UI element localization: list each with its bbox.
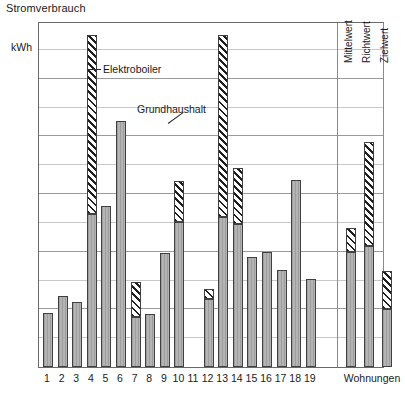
bar-2-grundhaushalt-segment [58, 296, 68, 367]
bar-13-elektroboiler-segment [218, 35, 228, 217]
bar-5-grundhaushalt-segment [101, 206, 111, 367]
bar-8-grundhaushalt-segment [145, 314, 155, 367]
x-tick-19: 19 [300, 372, 320, 384]
elektroboiler-leader-line [87, 69, 101, 70]
bar-mittelwert [346, 228, 356, 367]
bar-14 [233, 167, 243, 367]
bar-9-grundhaushalt-segment [160, 253, 170, 367]
bar-13 [218, 35, 228, 367]
bar-7-elektroboiler-segment [131, 282, 141, 317]
bar-3-grundhaushalt-segment [72, 302, 82, 367]
bar-19-grundhaushalt-segment [306, 279, 316, 367]
bar-16 [262, 252, 272, 367]
bar-18 [291, 180, 301, 367]
bar-mittelwert-elektroboiler-segment [346, 228, 356, 252]
bar-12-grundhaushalt-segment [204, 299, 214, 367]
chart-title: Stromverbrauch [6, 2, 86, 14]
bar-17 [277, 270, 287, 367]
bar-6 [116, 121, 126, 367]
bar-19 [306, 279, 316, 367]
bar-10 [174, 181, 184, 367]
bar-18-grundhaushalt-segment [291, 180, 301, 367]
bar-zielwert-grundhaushalt-segment [382, 309, 392, 367]
annotation-elektroboiler: Elektroboiler [103, 63, 161, 75]
bar-1-grundhaushalt-segment [43, 313, 53, 367]
bar-14-grundhaushalt-segment [233, 224, 243, 367]
label-mittelwert: Mittelwert [343, 20, 354, 63]
bar-8 [145, 314, 155, 367]
bar-richtwert-elektroboiler-segment [364, 142, 374, 246]
label-richtwert: Richtwert [361, 21, 372, 63]
bar-15 [247, 257, 257, 367]
bar-5 [101, 206, 111, 367]
bar-2 [58, 296, 68, 367]
bar-4-elektroboiler-segment [87, 35, 97, 214]
bar-16-grundhaushalt-segment [262, 252, 272, 367]
label-zielwert: Zielwert [379, 28, 390, 63]
y-axis-unit-label: kWh [0, 41, 32, 53]
group-separator [337, 23, 338, 367]
bar-4-grundhaushalt-segment [87, 214, 97, 367]
annotation-grundhaushalt: Grundhaushalt [137, 103, 206, 115]
bar-richtwert [364, 142, 374, 367]
bar-mittelwert-grundhaushalt-segment [346, 252, 356, 367]
bar-9 [160, 253, 170, 367]
bar-7 [131, 282, 141, 367]
bar-4 [87, 35, 97, 367]
bar-richtwert-grundhaushalt-segment [364, 246, 374, 367]
bar-7-grundhaushalt-segment [131, 317, 141, 367]
bar-14-elektroboiler-segment [233, 168, 243, 225]
bar-17-grundhaushalt-segment [277, 270, 287, 367]
bar-15-grundhaushalt-segment [247, 257, 257, 367]
bar-12-elektroboiler-segment [204, 289, 214, 299]
bar-6-grundhaushalt-segment [116, 121, 126, 367]
x-group-label-wohnungen: Wohnungen [333, 372, 405, 384]
bar-3 [72, 302, 82, 367]
bar-1 [43, 313, 53, 367]
bar-10-elektroboiler-segment [174, 181, 184, 221]
bar-zielwert [382, 271, 392, 367]
plot-area: Elektroboiler Grundhaushalt [38, 22, 384, 368]
bar-zielwert-elektroboiler-segment [382, 271, 392, 309]
bar-12 [204, 289, 214, 367]
bar-13-grundhaushalt-segment [218, 217, 228, 367]
bar-10-grundhaushalt-segment [174, 222, 184, 367]
